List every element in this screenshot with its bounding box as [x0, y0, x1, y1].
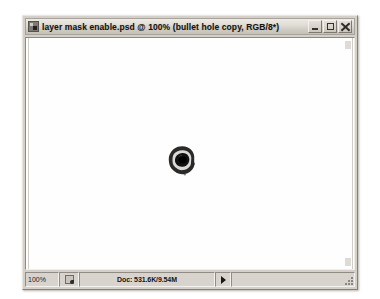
bullet-hole-artwork — [165, 144, 199, 178]
close-button[interactable] — [338, 20, 352, 33]
resize-grip-icon[interactable] — [342, 274, 353, 285]
zoom-level-value: 100% — [28, 276, 46, 283]
scroll-hint-top[interactable] — [345, 41, 351, 49]
status-bar: 100% Doc: 531.6K/9.54M — [25, 272, 355, 287]
doc-info-field[interactable]: Doc: 531.6K/9.54M — [79, 272, 215, 287]
photoshop-document-icon — [28, 21, 39, 32]
doc-info-text: Doc: 531.6K/9.54M — [117, 276, 177, 283]
scroll-hint-bottom[interactable] — [345, 258, 351, 266]
document-preview-button[interactable] — [59, 272, 79, 287]
document-preview-icon — [65, 275, 74, 284]
canvas-right-edge-rule — [352, 38, 353, 269]
photoshop-document-window: layer mask enable.psd @ 100% (bullet hol… — [22, 15, 358, 290]
maximize-button[interactable] — [323, 20, 337, 33]
popup-menu-arrow-icon — [221, 276, 226, 284]
status-popup-menu-button[interactable] — [215, 272, 231, 287]
screen-root: layer mask enable.psd @ 100% (bullet hol… — [0, 0, 380, 299]
zoom-level-input[interactable]: 100% — [25, 272, 59, 287]
window-controls — [308, 20, 352, 33]
canvas-area[interactable] — [25, 37, 355, 270]
bullet-hole-svg — [165, 144, 199, 178]
window-title: layer mask enable.psd @ 100% (bullet hol… — [42, 22, 308, 32]
title-bar[interactable]: layer mask enable.psd @ 100% (bullet hol… — [25, 18, 355, 35]
minimize-button[interactable] — [308, 20, 322, 33]
status-message-area — [231, 272, 355, 287]
canvas-left-edge-rule — [28, 38, 29, 269]
